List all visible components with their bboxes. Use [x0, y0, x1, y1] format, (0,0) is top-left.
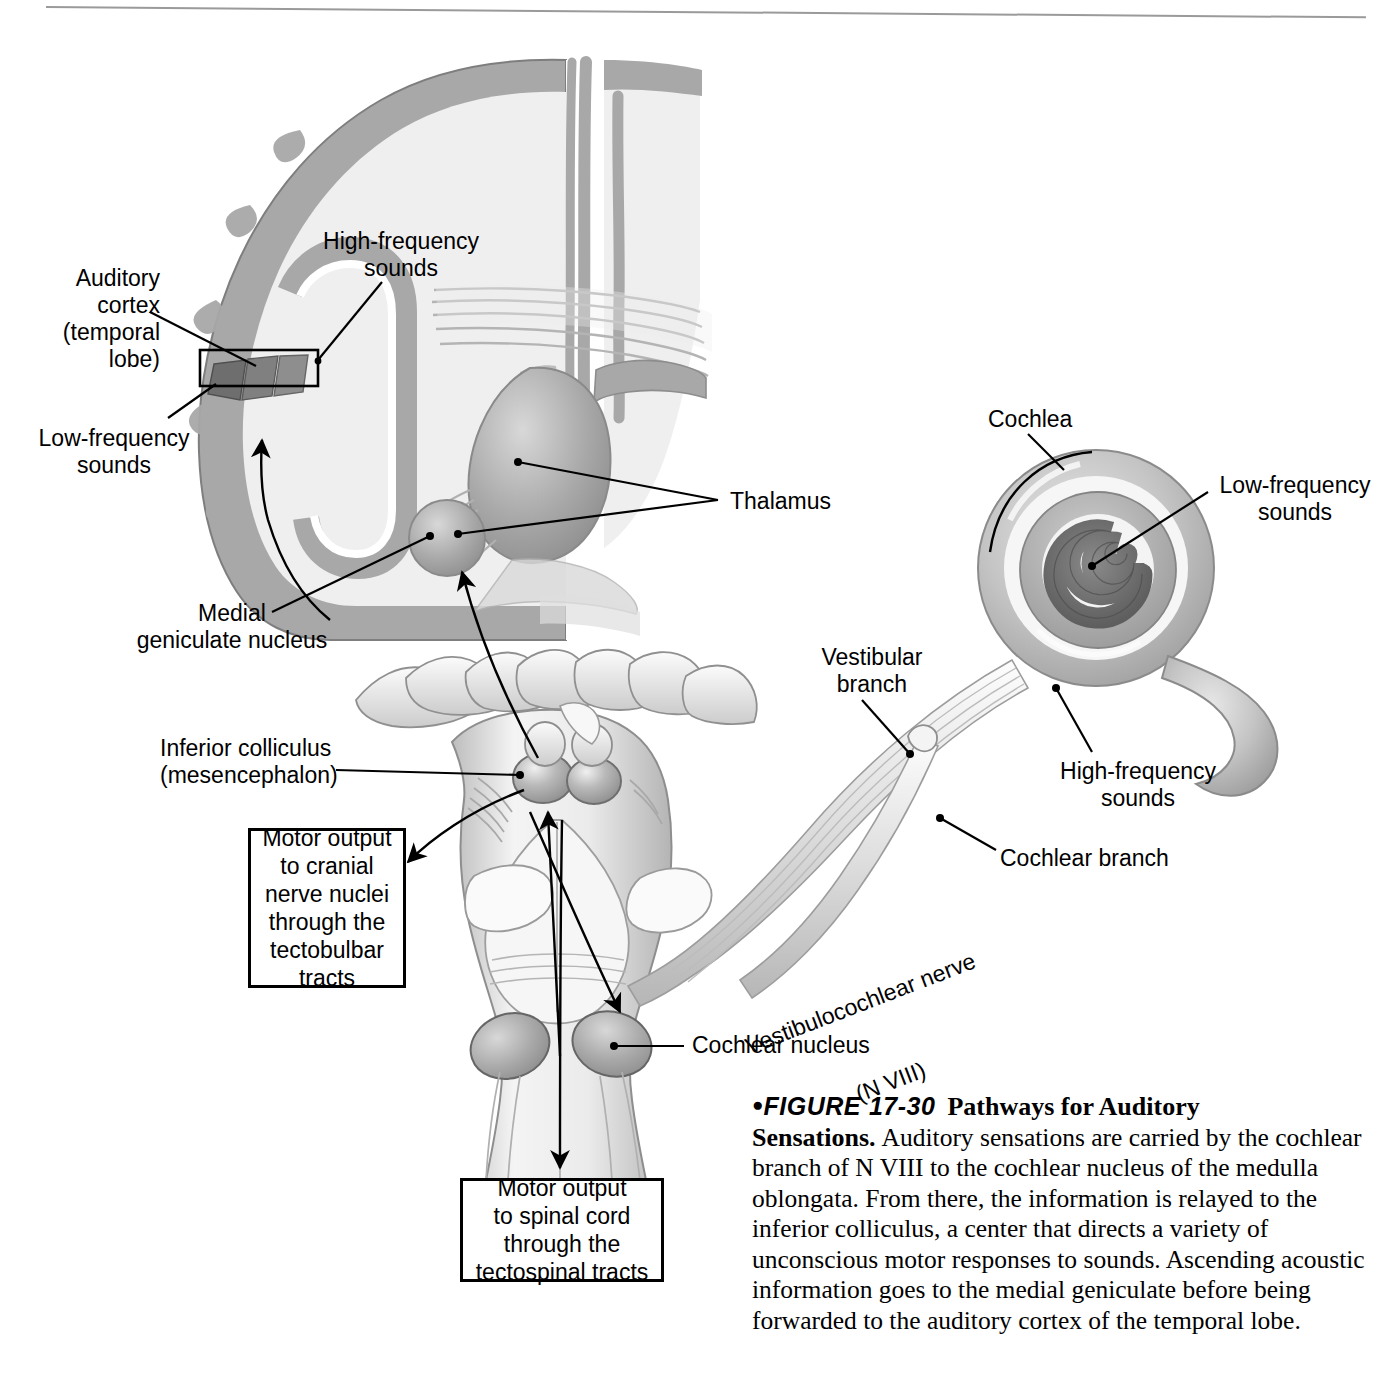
- label-thalamus: Thalamus: [730, 488, 870, 515]
- pons-bulge-right: [626, 868, 711, 932]
- label-cochlear-branch: Cochlear branch: [1000, 845, 1210, 872]
- leader-dot-high-frequency-brain: [315, 358, 322, 365]
- leader-cochlear-branch: [940, 818, 996, 850]
- leader-dot-low-frequency-cochlea: [1088, 562, 1096, 570]
- leader-dot-medial-geniculate: [426, 532, 434, 540]
- label-medial-geniculate-nucleus: Medial geniculate nucleus: [132, 600, 332, 654]
- label-cochlea: Cochlea: [988, 406, 1128, 433]
- leader-dot-thalamus-upper: [514, 458, 522, 466]
- leader-dot-inferior-colliculus: [516, 771, 524, 779]
- figure-bullet-icon: ●: [752, 1094, 763, 1115]
- leader-dot-thalamus-lower: [454, 530, 462, 538]
- cerebellar-lobule-right-3: [683, 666, 757, 725]
- callout-tectospinal-tracts: Motor output to spinal cord through the …: [460, 1178, 664, 1282]
- figure-17-30: Auditory cortex (temporal lobe) High-fre…: [0, 0, 1378, 1378]
- leader-high-frequency-cochlea: [1056, 688, 1092, 752]
- figure-number: 17-30: [869, 1092, 935, 1120]
- leader-dot-cochlear-nucleus: [610, 1042, 618, 1050]
- leader-dot-vestibular-branch: [906, 750, 914, 758]
- label-low-frequency-sounds-brain: Low-frequency sounds: [26, 425, 202, 479]
- label-low-frequency-sounds-cochlea: Low-frequency sounds: [1212, 472, 1378, 526]
- label-auditory-cortex: Auditory cortex (temporal lobe): [24, 265, 160, 373]
- coronal-brain-section: [189, 60, 712, 640]
- callout-tectobulbar-tracts: Motor output to cranial nerve nuclei thr…: [248, 828, 406, 988]
- label-vestibular-branch: Vestibular branch: [810, 644, 934, 698]
- label-high-frequency-sounds-brain: High-frequency sounds: [306, 228, 496, 282]
- leader-dot-high-frequency-cochlea: [1052, 684, 1060, 692]
- figure-number-word: FIGURE: [763, 1092, 860, 1120]
- figure-body: Auditory sensations are carried by the c…: [752, 1123, 1365, 1335]
- leader-dot-cochlear-branch: [936, 814, 944, 822]
- figure-caption: ●FIGURE17-30Pathways for Auditory Sensat…: [752, 1090, 1377, 1336]
- medial-geniculate-nucleus-body: [409, 500, 485, 576]
- leader-vestibular-branch: [862, 700, 910, 754]
- label-high-frequency-sounds-cochlea: High-frequency sounds: [1050, 758, 1226, 812]
- label-inferior-colliculus: Inferior colliculus (mesencephalon): [160, 735, 400, 789]
- brainstem-posterior-view: [356, 650, 757, 1180]
